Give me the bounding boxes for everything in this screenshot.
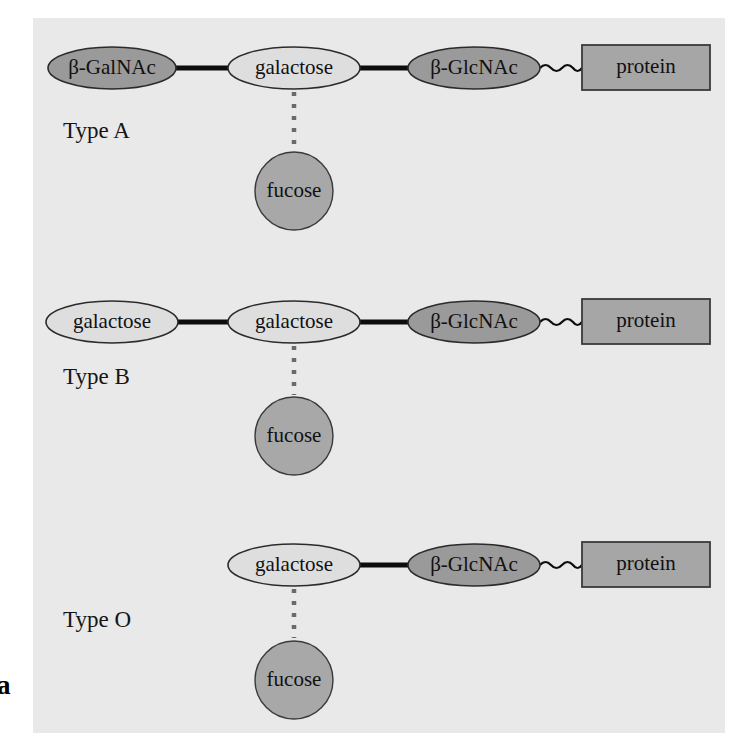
type-label-type-b: Type B	[63, 364, 130, 389]
rows-group: β-GalNAcgalactoseβ-GlcNAcproteinfucoseTy…	[46, 45, 710, 719]
node-label-terminal-sugar: β-GalNAc	[68, 55, 156, 79]
glycan-protein-linker	[540, 562, 582, 568]
type-label-type-a: Type A	[63, 118, 130, 143]
abo-antigen-diagram: β-GalNAcgalactoseβ-GlcNAcproteinfucoseTy…	[0, 0, 754, 756]
glycan-protein-linker	[540, 319, 582, 325]
glycan-protein-linker	[540, 65, 582, 71]
node-label-protein: protein	[616, 551, 676, 575]
chain-row-type-a: β-GalNAcgalactoseβ-GlcNAcproteinfucoseTy…	[48, 45, 710, 230]
node-label-glcnac: β-GlcNAc	[430, 309, 518, 333]
node-label-galactose: galactose	[255, 55, 333, 79]
node-label-protein: protein	[616, 308, 676, 332]
chain-row-type-o: galactoseβ-GlcNAcproteinfucoseType O	[63, 542, 710, 719]
node-label-protein: protein	[616, 54, 676, 78]
node-label-fucose: fucose	[267, 423, 322, 447]
node-label-terminal-sugar: galactose	[73, 309, 151, 333]
type-label-type-o: Type O	[63, 607, 131, 632]
node-label-galactose: galactose	[255, 309, 333, 333]
node-label-galactose: galactose	[255, 552, 333, 576]
figure-page: a β-GalNAcgalactoseβ-GlcNAcproteinfucose…	[0, 0, 754, 756]
node-label-glcnac: β-GlcNAc	[430, 55, 518, 79]
node-label-glcnac: β-GlcNAc	[430, 552, 518, 576]
chain-row-type-b: galactosegalactoseβ-GlcNAcproteinfucoseT…	[46, 299, 710, 475]
node-label-fucose: fucose	[267, 178, 322, 202]
node-label-fucose: fucose	[267, 667, 322, 691]
